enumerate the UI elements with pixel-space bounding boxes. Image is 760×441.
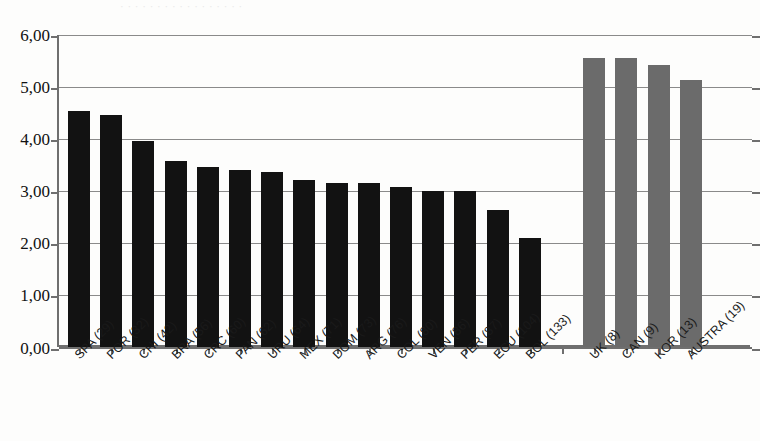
y-axis-tick-mark [51, 140, 59, 142]
y-axis-tick-mark [51, 296, 59, 298]
y-axis-tick-label: 3,00 [20, 182, 50, 202]
y-axis-tick-label: 0,00 [20, 339, 50, 359]
y-axis-tick-label: 2,00 [20, 234, 50, 254]
cropped-title-remnant: · · · · · · · · · · · · · · · · · [120, 0, 640, 14]
y-axis-tick-label: 6,00 [20, 26, 50, 46]
bar [68, 111, 90, 347]
bar [583, 58, 605, 347]
bar-layer [59, 35, 752, 347]
chart-screenshot: · · · · · · · · · · · · · · · · · 6,005,… [0, 0, 760, 441]
y-axis-tick-mark [51, 192, 59, 194]
y-axis-tick-mark [51, 349, 59, 351]
y-axis-tick-mark-right [752, 140, 760, 142]
bar [680, 80, 702, 347]
y-axis-tick-mark [51, 88, 59, 90]
y-axis-tick-label: 1,00 [20, 286, 50, 306]
plot-area: 6,005,004,003,002,001,000,00 [57, 35, 750, 347]
y-axis-tick-mark-right [752, 296, 760, 298]
y-axis-tick-mark-right [752, 88, 760, 90]
y-axis-tick-mark-right [752, 244, 760, 246]
bar [100, 115, 122, 347]
y-axis-tick-label: 4,00 [20, 130, 50, 150]
y-axis-tick-mark-right [752, 36, 760, 38]
y-axis-tick-label: 5,00 [20, 78, 50, 98]
y-axis-tick-mark-right [752, 192, 760, 194]
bar [615, 58, 637, 347]
y-axis-tick-mark [51, 36, 59, 38]
y-axis-tick-mark-right [752, 349, 760, 351]
bar [648, 65, 670, 347]
x-axis-label-layer: SPA (29)POR (32)CHI (42)BRA (56)CRC (60)… [57, 352, 757, 441]
y-axis-tick-mark [51, 244, 59, 246]
